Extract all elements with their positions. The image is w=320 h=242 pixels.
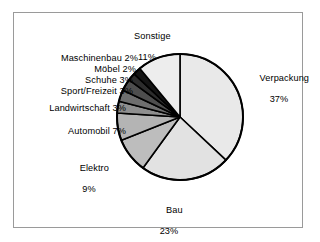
slice-label-elektro-name: Elektro — [80, 163, 109, 173]
slice-label-automobil: Automobil 7% — [30, 126, 126, 137]
slice-label-elektro-pct: 9% — [60, 184, 118, 195]
slice-label-bau-name: Bau — [166, 205, 183, 215]
slice-label-maschinenbau: Maschinenbau 2% — [30, 53, 138, 64]
slice-label-verpackung-name: Verpackung — [260, 73, 310, 83]
slice-label-sport-freizeit: Sport/Freizeit 3% — [28, 86, 133, 97]
slice-label-verpackung: Verpackung 37% — [243, 62, 315, 126]
pie-chart-figure: Sonstige 11% Verpackung 37% Bau 23% Elek… — [0, 0, 320, 242]
slice-label-elektro: Elektro 9% — [60, 152, 118, 216]
slice-label-bau: Bau 23% — [144, 194, 194, 242]
slice-label-moebel: Möbel 2% — [38, 64, 136, 75]
slice-label-schuhe: Schuhe 3% — [38, 75, 133, 86]
slice-label-bau-pct: 23% — [144, 226, 194, 237]
slice-label-landwirtschaft: Landwirtschaft 3% — [18, 103, 126, 114]
slice-label-verpackung-pct: 37% — [243, 94, 315, 105]
slice-label-sonstige-name: Sonstige — [134, 31, 171, 41]
